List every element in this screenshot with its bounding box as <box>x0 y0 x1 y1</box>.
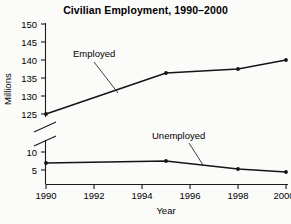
y-tick-label-135: 135 <box>21 73 37 84</box>
data-point-unemployed-1995 <box>164 159 168 163</box>
x-axis-title: Year <box>156 205 175 216</box>
chart-container: Civilian Employment, 1990–2000 150 145 1… <box>0 0 291 224</box>
y-tick-label-150: 150 <box>21 19 37 30</box>
y-tick-label-145: 145 <box>21 37 37 48</box>
data-point-unemployed-1998 <box>236 167 240 171</box>
y-tick-label-125: 125 <box>21 109 37 120</box>
data-point-employed-2000 <box>284 58 288 62</box>
data-point-employed-1995 <box>164 71 168 75</box>
x-tick-label-2000: 2000 <box>273 190 291 201</box>
data-point-employed-1990 <box>44 112 48 116</box>
y-tick-label-5: 5 <box>32 165 37 176</box>
data-point-unemployed-2000 <box>284 170 288 174</box>
y-axis-title: Millions <box>2 73 13 105</box>
y-tick-label-10: 10 <box>26 147 37 158</box>
x-tick-label-1994: 1994 <box>131 190 152 201</box>
x-tick-label-1990: 1990 <box>35 190 56 201</box>
series-line-employed <box>46 60 286 114</box>
data-point-unemployed-1990 <box>44 161 48 165</box>
leader-line-employed <box>94 62 118 93</box>
x-tick-label-1992: 1992 <box>83 190 104 201</box>
series-label-employed: Employed <box>73 48 115 59</box>
axis-break-slash-upper <box>34 122 56 132</box>
y-tick-label-130: 130 <box>21 91 37 102</box>
y-tick-label-140: 140 <box>21 55 37 66</box>
x-tick-label-1998: 1998 <box>227 190 248 201</box>
data-point-employed-1998 <box>236 67 240 71</box>
series-label-unemployed: Unemployed <box>152 130 205 141</box>
chart-plot-area: 150 145 140 135 130 125 10 5 Millions 19… <box>0 0 291 224</box>
x-tick-label-1996: 1996 <box>179 190 200 201</box>
leader-line-unemployed <box>189 143 203 165</box>
